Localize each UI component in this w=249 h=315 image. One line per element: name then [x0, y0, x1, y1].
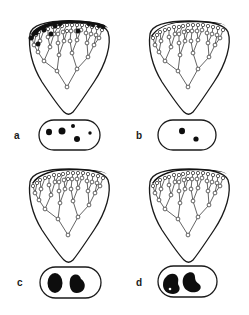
panel-label-a: a [14, 130, 20, 141]
panel-label-b: b [136, 130, 142, 141]
inclusions [179, 128, 199, 142]
branching-tree [30, 23, 103, 89]
branching-tree [151, 171, 224, 237]
panel-d: d [136, 169, 229, 297]
panel-b: b [136, 21, 229, 150]
inclusions [46, 124, 92, 142]
diagram-canvas: a b c [0, 0, 249, 315]
panel-label-c: c [17, 277, 23, 288]
panel-label-d: d [136, 277, 142, 288]
branching-tree [31, 171, 104, 237]
nucleus-pill [158, 120, 216, 150]
branching-tree [151, 23, 224, 89]
inclusions [48, 273, 85, 293]
panel-c: c [17, 169, 109, 298]
inclusion-hole [169, 288, 172, 291]
inclusions [163, 272, 201, 294]
panel-a: a [14, 20, 109, 150]
